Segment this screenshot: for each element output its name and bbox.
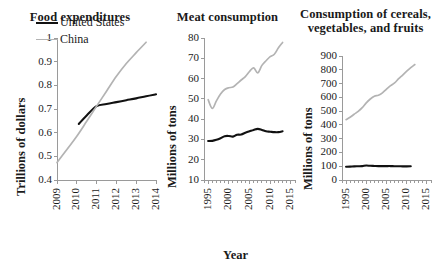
legend-item-china: China	[36, 31, 124, 48]
x-tick-label: 2010	[69, 188, 81, 211]
x-tick-label: 2010	[263, 188, 275, 211]
legend-swatch-united-states	[36, 22, 58, 24]
x-tick-label: 2015	[283, 188, 295, 211]
y-tick-label: 0.4	[38, 173, 52, 185]
y-tick-label: 300	[321, 132, 338, 144]
x-axis-label: Year	[163, 248, 308, 263]
y-tick-label: 0.6	[38, 126, 52, 138]
x-tick-label: 2015	[419, 188, 431, 211]
x-tick-label: 2012	[109, 188, 121, 210]
chart-panel-cereals-vegetables-fruits: Consumption of cereals, vegetables, and …	[295, 0, 436, 268]
plot-area: 0.40.50.60.70.80.91200920102011201220132…	[20, 34, 160, 214]
y-tick-label: 0.5	[38, 149, 52, 161]
plot-area: 0100200300400500600700800900199520002005…	[307, 52, 435, 214]
y-tick-label: 0.8	[38, 78, 52, 90]
y-tick-label: 0.7	[38, 102, 52, 114]
y-tick-label: 400	[321, 118, 338, 130]
x-tick-label: 2000	[221, 188, 233, 211]
plot-area: 102030405060708019952000200520102015	[171, 34, 299, 214]
y-tick-label: 40	[188, 112, 200, 124]
series-line-china	[57, 42, 146, 162]
y-tick-label: 800	[321, 63, 338, 75]
y-tick-label: 10	[188, 173, 200, 185]
x-tick-label: 2000	[359, 188, 371, 211]
y-tick-label: 70	[188, 51, 200, 63]
y-tick-label: 700	[321, 77, 338, 89]
series-line-united-states	[208, 129, 282, 141]
legend-label-china: China	[60, 32, 89, 47]
x-tick-label: 2005	[242, 188, 254, 211]
x-tick-label: 2010	[399, 188, 411, 211]
chart-panel-meat-consumption: Meat consumption Millions of tons 102030…	[155, 0, 300, 268]
y-tick-label: 100	[321, 159, 338, 171]
chart-panel-food-expenditures: Food expenditures Trillions of dollars 0…	[0, 0, 160, 268]
x-tick-label: 1995	[339, 188, 351, 211]
y-tick-label: 200	[321, 145, 338, 157]
y-tick-label: 80	[188, 31, 200, 43]
legend-swatch-china	[36, 39, 58, 40]
x-tick-label: 2011	[89, 188, 101, 210]
y-tick-label: 0.9	[38, 55, 52, 67]
series-line-china	[346, 65, 415, 120]
y-tick-label: 60	[188, 72, 200, 84]
series-line-united-states	[79, 94, 156, 124]
legend-label-united-states: United States	[60, 15, 124, 30]
chart-title: Consumption of cereals, vegetables, and …	[295, 8, 436, 35]
y-tick-label: 30	[188, 132, 200, 144]
y-tick-label: 20	[188, 153, 200, 165]
legend-item-united-states: United States	[36, 14, 124, 31]
y-tick-label: 900	[321, 49, 338, 61]
x-tick-label: 2013	[129, 188, 141, 211]
x-tick-label: 1995	[201, 188, 213, 211]
y-tick-label: 500	[321, 104, 338, 116]
x-tick-label: 2009	[50, 188, 62, 211]
y-tick-label: 50	[188, 92, 200, 104]
legend: United States China	[36, 14, 124, 48]
y-tick-label: 600	[321, 90, 338, 102]
chart-title: Meat consumption	[155, 11, 300, 25]
series-line-china	[208, 42, 282, 108]
x-tick-label: 2005	[379, 188, 391, 211]
y-tick-label: 0	[332, 173, 338, 185]
series-line-united-states	[346, 166, 411, 167]
